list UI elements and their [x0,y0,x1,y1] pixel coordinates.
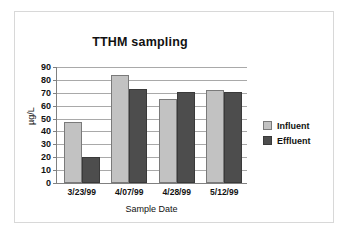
x-tick-label: 4/07/99 [115,187,143,197]
x-tick-label: 3/23/99 [68,187,96,197]
y-tick-label: 20 [41,152,51,162]
bar-group [58,67,106,183]
y-tick-label: 0 [46,178,51,188]
chart-legend: InfluentEffluent [263,118,329,148]
y-tick-label: 50 [41,114,51,124]
bar-effluent[interactable] [224,92,242,184]
x-tick-label: 4/28/99 [163,187,191,197]
y-tick-mark [53,170,57,171]
legend-label: Influent [277,121,310,131]
bar-group [106,67,154,183]
bar-influent[interactable] [64,122,82,183]
y-tick-label: 90 [41,62,51,72]
y-tick-label: 70 [41,88,51,98]
y-tick-mark [53,131,57,132]
y-tick-mark [53,183,57,184]
bar-influent[interactable] [206,90,224,183]
legend-item-effluent[interactable]: Effluent [263,133,329,148]
y-tick-mark [53,106,57,107]
y-tick-label: 40 [41,126,51,136]
bar-influent[interactable] [159,99,177,183]
x-tick-label: 5/12/99 [210,187,238,197]
bar-group [201,67,249,183]
legend-label: Effluent [277,136,311,146]
chart-title: TTHM sampling [15,35,265,49]
y-tick-mark [53,119,57,120]
y-tick-label: 60 [41,101,51,111]
y-axis-title: µg/L [26,107,36,125]
y-tick-mark [53,93,57,94]
chart-frame: TTHM sampling µg/L 9080706050403020100 3… [14,11,334,223]
bar-influent[interactable] [111,75,129,183]
x-axis-title: Sample Date [56,204,247,214]
y-tick-label: 30 [41,139,51,149]
y-tick-label: 10 [41,165,51,175]
y-tick-mark [53,80,57,81]
plot-area: 9080706050403020100 3/23/994/07/994/28/9… [56,67,247,184]
bars-layer [58,67,248,183]
bar-effluent[interactable] [177,92,195,184]
legend-swatch-icon [263,136,272,145]
y-tick-mark [53,144,57,145]
y-tick-label: 80 [41,75,51,85]
bar-effluent[interactable] [129,89,147,183]
bar-effluent[interactable] [82,157,100,183]
y-tick-mark [53,157,57,158]
legend-item-influent[interactable]: Influent [263,118,329,133]
bar-group [153,67,201,183]
y-tick-mark [53,67,57,68]
legend-swatch-icon [263,121,272,130]
